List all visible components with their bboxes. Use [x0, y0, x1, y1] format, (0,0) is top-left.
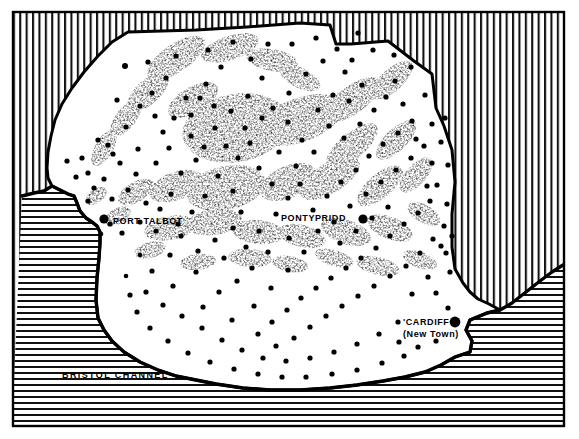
settlement-dot — [363, 191, 368, 196]
settlement-dot — [370, 47, 375, 52]
settlement-dot — [369, 215, 374, 220]
settlement-dot — [201, 144, 206, 149]
settlement-dot — [447, 269, 452, 274]
settlement-dot — [255, 331, 260, 336]
settlement-dot — [297, 181, 302, 186]
settlement-dot — [393, 167, 398, 172]
settlement-dot — [284, 307, 289, 312]
settlement-dot — [438, 243, 443, 248]
settlement-dot — [403, 263, 408, 268]
settlement-dot — [223, 143, 228, 148]
settlement-dot — [189, 209, 194, 214]
settlement-dot — [408, 64, 413, 69]
settlement-dot — [438, 139, 443, 144]
settlement-dot — [445, 305, 450, 310]
settlement-dot — [279, 374, 284, 379]
settlement-dot — [110, 151, 115, 156]
settlement-dot — [85, 198, 90, 203]
settlement-dot — [355, 30, 360, 35]
settlement-dot — [430, 236, 435, 241]
settlement-dot — [326, 123, 331, 128]
town-dot-port-talbot[interactable] — [99, 214, 108, 223]
settlement-dot — [114, 97, 119, 102]
settlement-dot — [160, 302, 165, 307]
settlement-dot — [338, 179, 343, 184]
settlement-dot — [197, 95, 202, 100]
settlement-dot — [212, 237, 217, 242]
map-canvas: PORT TALBOTPONTYPRIDD'CARDIFF(New Town) … — [0, 0, 579, 439]
settlement-dot — [109, 196, 114, 201]
settlement-dot — [219, 337, 224, 342]
settlement-dot — [85, 170, 90, 175]
settlement-dot — [255, 371, 260, 376]
settlement-dot — [230, 188, 235, 193]
settlement-dot — [417, 250, 422, 255]
settlement-dot — [107, 221, 112, 226]
settlement-dot — [235, 155, 240, 160]
settlement-dot — [378, 179, 383, 184]
settlement-dot — [313, 285, 318, 290]
settlement-dot — [64, 158, 69, 163]
settlement-dot — [259, 115, 264, 120]
town-dot-pontypridd[interactable] — [358, 214, 367, 223]
settlement-dot — [149, 90, 154, 95]
settlement-dot — [268, 285, 273, 290]
settlement-dot — [230, 39, 235, 44]
settlement-dot — [286, 235, 291, 240]
settlement-dot — [415, 210, 420, 215]
settlement-dot — [385, 204, 390, 209]
settlement-dot — [273, 343, 278, 348]
settlement-dot — [218, 64, 223, 69]
town-sublabel-cardiff: (New Town) — [403, 329, 459, 339]
settlement-dot — [373, 245, 378, 250]
settlement-dot — [343, 265, 348, 270]
settlement-dot — [355, 293, 360, 298]
settlement-dot — [138, 253, 143, 258]
settlement-dot — [245, 93, 250, 98]
settlement-dot — [178, 233, 183, 238]
settlement-dot — [229, 317, 234, 322]
settlement-dot — [366, 153, 371, 158]
town-dot-cardiff[interactable] — [450, 317, 461, 328]
settlement-dot — [342, 69, 347, 74]
settlement-dot — [286, 90, 291, 95]
settlement-dot — [429, 121, 434, 126]
settlement-dot — [395, 319, 400, 324]
settlement-dot — [178, 170, 183, 175]
settlement-dot — [160, 129, 165, 134]
settlement-dot — [276, 149, 281, 154]
settlement-dot — [207, 359, 212, 364]
settlement-dot — [149, 268, 154, 273]
settlement-dot — [311, 149, 316, 154]
settlement-dot — [179, 313, 184, 318]
settlement-dot — [299, 137, 304, 142]
settlement-dot — [421, 143, 426, 148]
settlement-dot — [171, 115, 176, 120]
settlement-dot — [434, 182, 439, 187]
settlement-dot — [95, 137, 100, 142]
settlement-dot — [320, 58, 325, 63]
settlement-dot — [408, 155, 413, 160]
settlement-dot — [215, 173, 220, 178]
settlement-dot — [429, 160, 434, 165]
settlement-dot — [341, 135, 346, 140]
settlement-dot — [265, 41, 270, 46]
settlement-dot — [349, 57, 354, 62]
settlement-dot — [260, 355, 265, 360]
settlement-dot — [127, 292, 132, 297]
settlement-dot — [291, 335, 296, 340]
settlement-dot — [79, 155, 84, 160]
bristol-channel-label: BRISTOL CHANNEL — [62, 370, 169, 380]
settlement-dot — [331, 349, 336, 354]
settlement-dot — [123, 124, 128, 129]
settlement-dot — [371, 283, 376, 288]
settlement-dot — [248, 56, 253, 61]
settlement-dot — [346, 98, 351, 103]
settlement-dot — [443, 250, 448, 255]
settlement-dot — [221, 255, 226, 260]
settlement-dot — [283, 358, 288, 363]
settlement-dot — [251, 303, 256, 308]
settlement-dot — [301, 249, 306, 254]
settlement-dot — [216, 289, 221, 294]
settlement-dot — [193, 157, 198, 162]
